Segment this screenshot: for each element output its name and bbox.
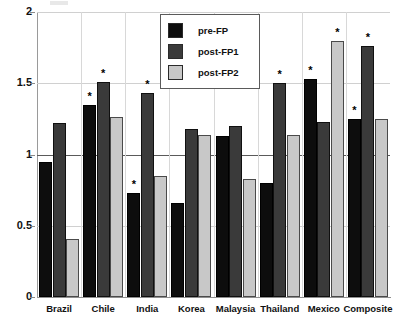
bar xyxy=(198,135,211,297)
significance-marker: * xyxy=(335,27,339,38)
x-tick-label: Composite xyxy=(343,303,392,314)
bar xyxy=(361,46,374,297)
bar xyxy=(260,183,273,297)
significance-marker: * xyxy=(366,32,370,43)
bar xyxy=(154,176,167,297)
significance-marker: * xyxy=(132,179,136,190)
y-tick-mark xyxy=(30,155,35,156)
bar xyxy=(317,122,330,297)
legend-swatch xyxy=(168,65,183,80)
x-tick-label: Mexico xyxy=(308,303,340,314)
bar xyxy=(141,93,154,297)
legend-swatch xyxy=(168,23,183,38)
x-tick-label: Korea xyxy=(178,303,205,314)
bar xyxy=(273,83,286,297)
y-tick-mark xyxy=(30,226,35,227)
x-axis-line xyxy=(37,297,391,298)
y-tick-label: 0.5 xyxy=(6,220,32,231)
significance-marker: * xyxy=(145,79,149,90)
y-tick-mark xyxy=(30,12,35,13)
bar xyxy=(83,105,96,297)
legend: pre-FPpost-FP1post-FP2 xyxy=(160,14,260,89)
legend-item: post-FP1 xyxy=(168,41,253,62)
x-tick-label: India xyxy=(136,303,158,314)
bar xyxy=(110,117,123,297)
bar-group xyxy=(39,12,79,297)
scan-artifact xyxy=(50,1,68,5)
bar xyxy=(171,203,184,297)
significance-marker: * xyxy=(308,65,312,76)
bar xyxy=(331,41,344,298)
bar-group: * xyxy=(260,12,300,297)
x-axis: BrazilChileIndiaKoreaMalaysiaThailandMex… xyxy=(37,303,390,321)
significance-marker: * xyxy=(278,69,282,80)
x-tick-label: Brazil xyxy=(46,303,72,314)
bar xyxy=(243,179,256,297)
bar xyxy=(185,129,198,297)
bar xyxy=(39,162,52,297)
bar-chart: 00.511.52 ********* pre-FPpost-FP1post-F… xyxy=(0,0,399,326)
x-tick-label: Thailand xyxy=(260,303,299,314)
legend-swatch xyxy=(168,44,183,59)
x-tick-label: Malaysia xyxy=(216,303,256,314)
significance-marker: * xyxy=(88,91,92,102)
significance-marker: * xyxy=(352,105,356,116)
y-tick-mark xyxy=(30,83,35,84)
bar-group: ** xyxy=(348,12,388,297)
y-tick-label: 2 xyxy=(6,6,32,17)
bar xyxy=(348,119,361,297)
legend-item: pre-FP xyxy=(168,20,253,41)
bar xyxy=(66,239,79,297)
bar xyxy=(287,135,300,297)
x-tick-label: Chile xyxy=(92,303,115,314)
y-tick-label: 1.5 xyxy=(6,77,32,88)
legend-label: post-FP1 xyxy=(198,46,239,57)
bar xyxy=(216,136,229,297)
bar xyxy=(97,82,110,297)
bar xyxy=(375,119,388,297)
legend-label: post-FP2 xyxy=(198,67,239,78)
bar xyxy=(304,79,317,297)
legend-item: post-FP2 xyxy=(168,62,253,83)
y-tick-label: 0 xyxy=(6,291,32,302)
bar-group: ** xyxy=(83,12,123,297)
bar-group: ** xyxy=(304,12,344,297)
legend-label: pre-FP xyxy=(198,25,228,36)
significance-marker: * xyxy=(101,68,105,79)
bar xyxy=(127,193,140,297)
bar xyxy=(229,126,242,297)
y-tick-label: 1 xyxy=(6,149,32,160)
y-axis: 00.511.52 xyxy=(0,0,32,326)
bar xyxy=(53,123,66,297)
y-tick-mark xyxy=(30,297,35,298)
